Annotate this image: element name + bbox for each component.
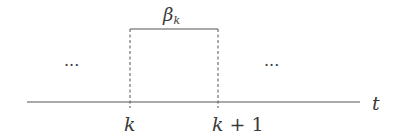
tick-label-k-plus-1-rest: + 1 [230,113,264,135]
pulse-label: βk [162,4,180,27]
pulse-timeline-diagram: t βk ··· ··· k k+ 1 [0,0,404,139]
ellipsis-left: ··· [64,56,79,75]
tick-label-k-plus-1: k+ 1 [212,113,264,135]
ellipsis-right: ··· [264,56,279,75]
pulse-label-beta: β [162,4,173,25]
tick-label-k: k [124,113,136,135]
axis-label-t: t [372,92,380,114]
pulse-label-subscript: k [173,14,180,27]
tick-label-k-plus-1-var: k [212,113,224,135]
